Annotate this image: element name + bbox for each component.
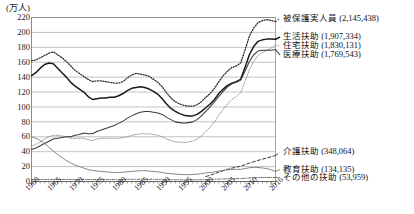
x-tick-label: 2010: [242, 176, 259, 193]
series-label-7: その他の扶助 (53,959): [283, 173, 368, 183]
x-tick-label: 2000: [198, 176, 215, 193]
x-tick-label: 1980: [111, 176, 128, 193]
x-tick-label: 1990: [155, 176, 172, 193]
series-label-5: 介護扶助 (348,064): [283, 147, 354, 157]
x-tick-label: 1960: [24, 176, 41, 193]
x-tick-label: 1970: [68, 176, 85, 193]
series-label-1: 被保護実人員 (2,145,438): [283, 14, 379, 24]
x-tick-label: 2005: [220, 176, 237, 193]
x-tick-label: 1995: [177, 176, 194, 193]
series-label-4: 医療扶助 (1,769,543): [283, 50, 361, 60]
welfare-recipients-line-chart: (万人) 020406080100120140160180200220 1960…: [0, 0, 414, 214]
x-tick-label: 1965: [46, 176, 63, 193]
x-tick-label: 1985: [133, 176, 150, 193]
x-tick-label: 1975: [89, 176, 106, 193]
